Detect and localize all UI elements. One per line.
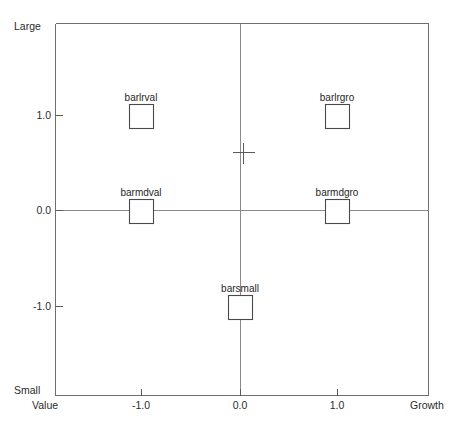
data-point-marker[interactable] [229,296,253,320]
data-point-label: barlrgro [320,92,355,103]
data-point-label: barsmall [221,283,259,294]
y-axis-ticks: 1.0 0.0 -1.0 [33,109,63,312]
y-tick-label-1: 1.0 [36,109,51,121]
x-axis-ticks: -1.0 0.0 1.0 [132,389,344,412]
data-point-marker[interactable] [130,200,154,224]
plot-frame [56,24,429,396]
data-point-barmdval[interactable]: barmdval [120,187,161,224]
data-point-barmdgro[interactable]: barmdgro [316,187,359,224]
data-point-barsmall[interactable]: barsmall [221,283,259,320]
scatter-chart-panel: 1.0 0.0 -1.0 -1.0 0.0 1.0 Large Small Va… [0,0,456,437]
data-point-label: barlrval [125,92,158,103]
data-point-barlrval[interactable]: barlrval [125,92,158,129]
axis-label-growth: Growth [410,399,444,411]
x-tick-label-1: -1.0 [132,399,150,411]
data-point-marker[interactable] [130,105,154,129]
plot-canvas: 1.0 0.0 -1.0 -1.0 0.0 1.0 Large Small Va… [0,0,456,437]
x-tick-label-2: 0.0 [233,399,248,411]
data-point-marker[interactable] [326,105,350,129]
crosshair-marker[interactable] [233,143,255,164]
y-tick-label-3: -1.0 [33,300,51,312]
data-point-barlrgro[interactable]: barlrgro [320,92,355,129]
axis-corner-labels: Large Small Value Growth [14,20,444,411]
axis-label-large: Large [14,20,41,32]
y-tick-label-2: 0.0 [36,204,51,216]
axis-label-small: Small [14,384,40,396]
data-point-label: barmdgro [316,187,359,198]
data-point-marker[interactable] [326,200,350,224]
x-tick-label-3: 1.0 [330,399,345,411]
zero-axes [56,24,429,396]
axis-label-value: Value [32,399,58,411]
data-points: barlrval barlrgro barmdval barmdgro bars… [120,92,358,320]
data-point-label: barmdval [120,187,161,198]
